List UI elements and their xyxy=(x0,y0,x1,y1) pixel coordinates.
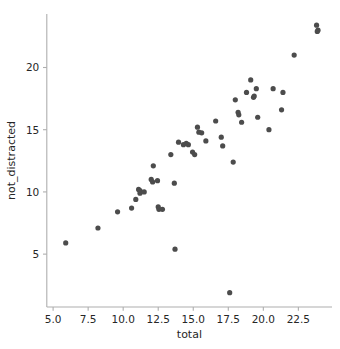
data-point xyxy=(315,28,320,33)
plot-canvas: 5101520 5.07.510.012.515.017.520.022.5 t… xyxy=(0,0,340,349)
data-point xyxy=(186,142,191,147)
x-tick-label: 17.5 xyxy=(217,313,240,325)
data-point xyxy=(239,120,244,125)
data-point xyxy=(314,23,319,28)
data-point xyxy=(168,152,173,157)
data-point xyxy=(150,179,155,184)
data-point xyxy=(176,140,181,145)
data-point xyxy=(219,135,224,140)
x-tick-label: 5.0 xyxy=(45,313,62,325)
data-point xyxy=(151,163,156,168)
y-axis-title: not_distracted xyxy=(5,121,18,200)
x-tick-label: 15.0 xyxy=(182,313,205,325)
data-point xyxy=(95,225,100,230)
data-point xyxy=(279,107,284,112)
data-point xyxy=(63,240,68,245)
data-point xyxy=(227,290,232,295)
data-point xyxy=(248,77,253,82)
x-tick-label: 7.5 xyxy=(80,313,97,325)
x-tick-label: 10.0 xyxy=(111,313,134,325)
data-point xyxy=(213,118,218,123)
data-point xyxy=(280,90,285,95)
data-point xyxy=(115,209,120,214)
x-tick-label: 12.5 xyxy=(147,313,170,325)
data-point xyxy=(192,152,197,157)
data-point xyxy=(129,205,134,210)
data-point xyxy=(155,178,160,183)
data-point xyxy=(160,207,165,212)
data-point xyxy=(244,90,249,95)
data-point xyxy=(133,197,138,202)
x-tick-label: 22.5 xyxy=(287,313,310,325)
data-point xyxy=(220,143,225,148)
y-tick-label: 5 xyxy=(33,248,40,260)
scatter-plot-figure: 5101520 5.07.510.012.515.017.520.022.5 t… xyxy=(0,0,340,349)
data-point xyxy=(255,115,260,120)
x-axis-title: total xyxy=(177,328,202,341)
y-tick-label: 15 xyxy=(26,124,39,136)
data-point xyxy=(172,247,177,252)
data-point xyxy=(203,138,208,143)
y-tick-label: 20 xyxy=(26,61,39,73)
data-point xyxy=(195,125,200,130)
data-point xyxy=(266,127,271,132)
data-point xyxy=(292,52,297,57)
data-point xyxy=(233,97,238,102)
data-point xyxy=(142,189,147,194)
data-point xyxy=(254,86,259,91)
data-point xyxy=(199,130,204,135)
data-point xyxy=(172,181,177,186)
data-point xyxy=(231,159,236,164)
y-tick-label: 10 xyxy=(26,186,39,198)
data-point xyxy=(236,112,241,117)
plot-background xyxy=(0,0,340,349)
data-point xyxy=(252,94,257,99)
x-tick-label: 20.0 xyxy=(252,313,275,325)
data-point xyxy=(271,86,276,91)
